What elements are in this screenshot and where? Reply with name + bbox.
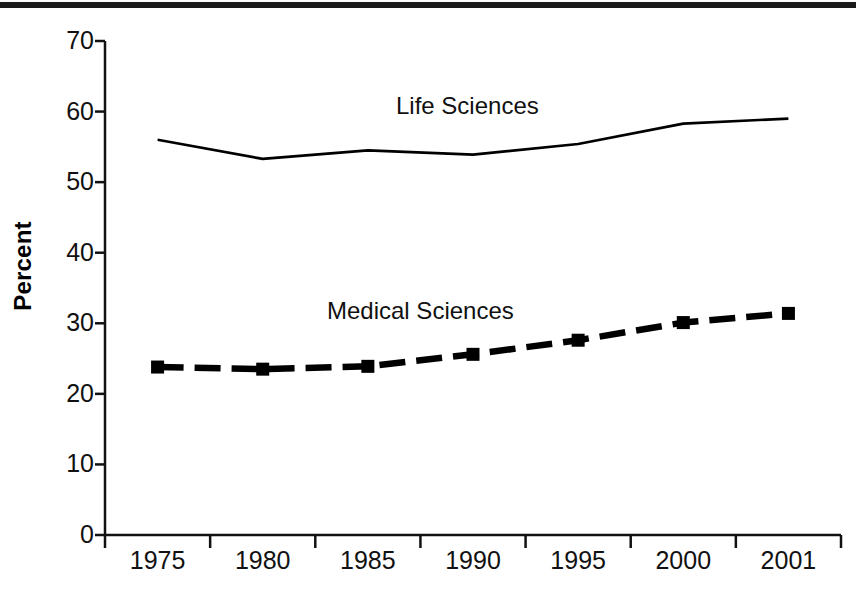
y-tick-label: 0 xyxy=(34,522,94,547)
y-tick-label: 20 xyxy=(34,381,94,406)
series-annotation-medical-sciences: Medical Sciences xyxy=(327,299,514,323)
data-point-marker xyxy=(256,363,269,376)
series-annotation-life-sciences: Life Sciences xyxy=(396,94,539,118)
data-point-marker xyxy=(467,348,480,361)
y-tick-label: 50 xyxy=(34,169,94,194)
x-tick-label: 1975 xyxy=(103,548,213,573)
y-tick-label: 30 xyxy=(34,310,94,335)
data-point-marker xyxy=(677,316,690,329)
x-tick-label: 1990 xyxy=(418,548,528,573)
chart-figure: 70 60 50 40 30 20 10 0 1975 1980 1985 19… xyxy=(0,0,856,601)
x-tick-label: 1985 xyxy=(313,548,423,573)
x-tick-label: 2001 xyxy=(733,548,843,573)
x-tick-label: 1980 xyxy=(208,548,318,573)
x-tick-label: 2000 xyxy=(628,548,738,573)
y-tick-label: 40 xyxy=(34,240,94,265)
y-tick-label: 70 xyxy=(34,28,94,53)
y-tick-label: 10 xyxy=(34,451,94,476)
y-axis-tick-label-group: 70 60 50 40 30 20 10 0 xyxy=(34,0,94,601)
data-point-marker xyxy=(572,334,585,347)
data-point-marker xyxy=(151,361,164,374)
y-axis-tick-marks xyxy=(95,41,105,535)
series-line-life-sciences xyxy=(158,119,789,159)
y-tick-label: 60 xyxy=(34,99,94,124)
data-point-marker xyxy=(782,307,795,320)
x-tick-label: 1995 xyxy=(523,548,633,573)
y-axis-title: Percent xyxy=(9,216,37,316)
data-point-marker xyxy=(361,360,374,373)
